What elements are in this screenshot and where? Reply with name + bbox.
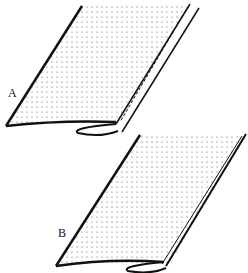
- diagram-canvas: [0, 0, 248, 273]
- panel-label-b: B: [58, 226, 66, 241]
- panel-a-fabric: [6, 4, 199, 135]
- panel-b-fabric: [56, 134, 246, 272]
- panel-label-a: A: [8, 86, 17, 101]
